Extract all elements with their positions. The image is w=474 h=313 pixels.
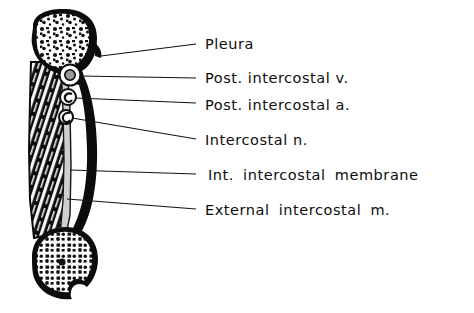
intercostal-nerve — [59, 110, 73, 124]
anatomy-figure: Pleura Post. intercostal v. Post. interc… — [0, 0, 474, 313]
leader-post-intercostal-v — [79, 76, 196, 78]
label-int-intercostal-membrane: Int. intercostal membrane — [208, 168, 419, 183]
label-external-intercostal-m: External intercostal m. — [205, 203, 390, 218]
posterior-intercostal-artery — [60, 89, 76, 105]
leader-pleura — [101, 44, 196, 56]
lower-rib-cross-section — [30, 225, 102, 301]
label-pleura: Pleura — [205, 37, 254, 52]
label-post-intercostal-v: Post. intercostal v. — [205, 71, 349, 86]
leader-post-intercostal-a — [76, 98, 196, 103]
label-post-intercostal-a: Post. intercostal a. — [205, 98, 350, 113]
label-intercostal-n: Intercostal n. — [205, 133, 308, 148]
